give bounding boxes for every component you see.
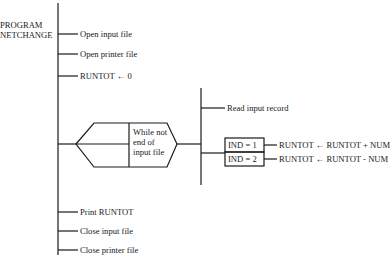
case-action-1: RUNTOT ← RUNTOT + NUM xyxy=(279,140,390,150)
diagram-lines xyxy=(0,0,390,255)
loop-condition-line2: end of xyxy=(133,137,155,147)
case-action-2: RUNTOT ← RUNTOT - NUM xyxy=(279,154,388,164)
step-close-input-file: Close input file xyxy=(80,226,133,236)
case-condition-2: IND = 2 xyxy=(228,154,257,164)
step-close-printer-file: Close printer file xyxy=(80,245,138,255)
step-open-printer-file: Open printer file xyxy=(80,49,137,59)
loop-condition-line1: While not xyxy=(133,127,167,137)
case-condition-1: IND = 1 xyxy=(228,140,257,150)
program-name-line2: NETCHANGE xyxy=(0,30,53,40)
program-name-line1: PROGRAM xyxy=(0,20,43,30)
step-print-runtot: Print RUNTOT xyxy=(80,207,134,217)
loop-condition-line3: input file xyxy=(133,147,164,157)
step-open-input-file: Open input file xyxy=(80,29,132,39)
step-init-runtot: RUNTOT ← 0 xyxy=(80,71,132,81)
step-read-input-record: Read input record xyxy=(227,103,289,113)
